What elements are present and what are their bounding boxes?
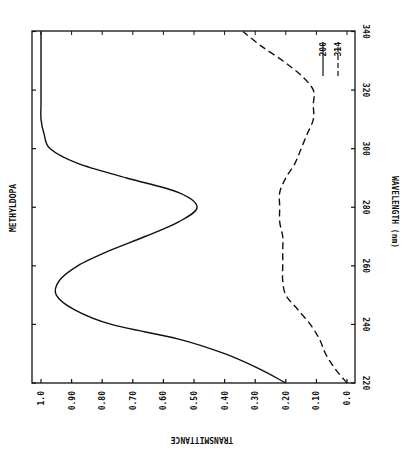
chart: 1.00.900.800.700.600.500.400.300.200.100… [0, 0, 408, 458]
y-tick-label: 0.30 [251, 391, 260, 410]
y-tick-label: 0.0 [343, 391, 352, 406]
x-tick-label: 280 [361, 200, 370, 215]
x-tick-label: 240 [361, 317, 370, 332]
y-tick-label: 1.0 [37, 391, 46, 406]
y-tick-label: 0.40 [221, 391, 230, 410]
legend-dashed-label: 314 [334, 42, 343, 57]
legend: 200 314 [319, 42, 343, 76]
y-tick-label: 0.90 [68, 391, 77, 410]
y-tick-label: 0.10 [312, 391, 321, 410]
plot-frame [32, 31, 355, 383]
y-tick-label: 0.70 [129, 391, 138, 410]
legend-solid-label: 200 [319, 42, 328, 57]
axis-ticks: 1.00.900.800.700.600.500.400.300.200.100… [32, 24, 370, 410]
x-tick-label: 300 [361, 141, 370, 156]
y-tick-label: 0.20 [282, 391, 291, 410]
plot-border [32, 31, 355, 383]
series-314-dashed [243, 32, 347, 384]
y-tick-label: 0.60 [159, 391, 168, 410]
chart-title: METHYLDOPA [9, 184, 18, 232]
y-tick-label: 0.50 [190, 391, 199, 410]
x-tick-label: 340 [361, 24, 370, 39]
x-tick-label: 320 [361, 83, 370, 98]
y-axis-title: TRANSMITTANCE [171, 435, 234, 444]
x-axis-title: WAVELENGTH (nm) [390, 176, 399, 248]
x-tick-label: 220 [361, 376, 370, 391]
x-tick-label: 260 [361, 259, 370, 274]
series-200-solid [41, 32, 286, 384]
y-tick-label: 0.80 [98, 391, 107, 410]
data-series [41, 32, 347, 384]
